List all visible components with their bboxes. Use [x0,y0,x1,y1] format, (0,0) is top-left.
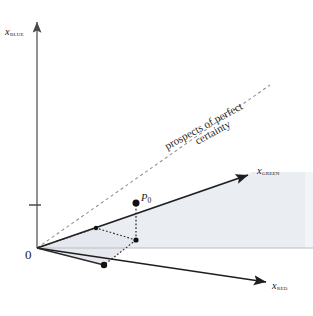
axis-label-blue: xBLUE [5,27,24,38]
point-p0-label-subscript: 0 [148,196,152,205]
point-p0-label-variable: P [141,192,147,203]
projection-foot-marker [133,237,138,242]
axis-label-red: xRED [272,281,287,292]
point-p0-label: P0 [141,193,151,204]
red-axis [37,248,266,282]
axis-label-red-variable: x [272,280,277,291]
axis-label-green-subscript: GREEN [262,168,280,177]
axis-label-red-subscript: RED [277,283,288,292]
axis-label-blue-variable: x [5,26,10,37]
green-ray-marker [94,226,98,230]
colour-space-diagram: xBLUE xGREEN xRED 0 P0 prospects of perf… [0,0,313,316]
origin-label: 0 [25,248,32,261]
axis-label-blue-subscript: BLUE [10,29,24,38]
axis-label-green-variable: x [257,165,262,176]
axis-label-green: xGREEN [257,166,279,177]
point-p0-marker [133,200,140,207]
red-axis-marker [101,262,107,268]
